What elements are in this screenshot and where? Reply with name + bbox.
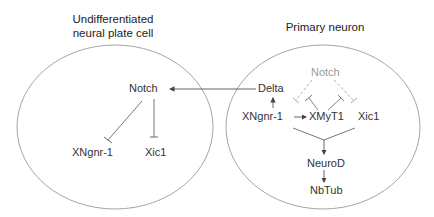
left-notch-inhibits-xic1 [150, 99, 158, 137]
right-cell-title: Primary neuron [270, 20, 380, 34]
right-neurod-label: NeuroD [307, 157, 345, 170]
right-nbtub-label: NbTub [310, 184, 343, 197]
xmyt1-inhibits-right-notch-edge [328, 95, 344, 110]
left-xic1-label: Xic1 [145, 146, 166, 159]
left-cell-title: Undifferentiated neural plate cell [48, 12, 178, 40]
left-xngnr1-label: XNgnr-1 [72, 146, 113, 159]
notch-inhibits-xngnr1-dashed [293, 80, 312, 103]
left-cell-membrane [17, 45, 213, 209]
right-xngnr1-label: XNgnr-1 [242, 110, 283, 123]
right-xmyt1-label: XMyT1 [309, 110, 344, 123]
notch-inhibits-xic1-dashed [334, 80, 357, 103]
right-notch-label: Notch [311, 66, 340, 79]
left-cell-title-line1: Undifferentiated [48, 12, 178, 26]
left-notch-label: Notch [129, 82, 158, 95]
xmyt1-inhibits-left-notch-edge [305, 95, 318, 110]
right-xic1-label: Xic1 [358, 110, 379, 123]
convergence-to-neurod [293, 128, 355, 154]
right-delta-label: Delta [258, 82, 284, 95]
left-notch-inhibits-xngnr1 [104, 101, 142, 143]
left-cell-title-line2: neural plate cell [48, 26, 178, 40]
